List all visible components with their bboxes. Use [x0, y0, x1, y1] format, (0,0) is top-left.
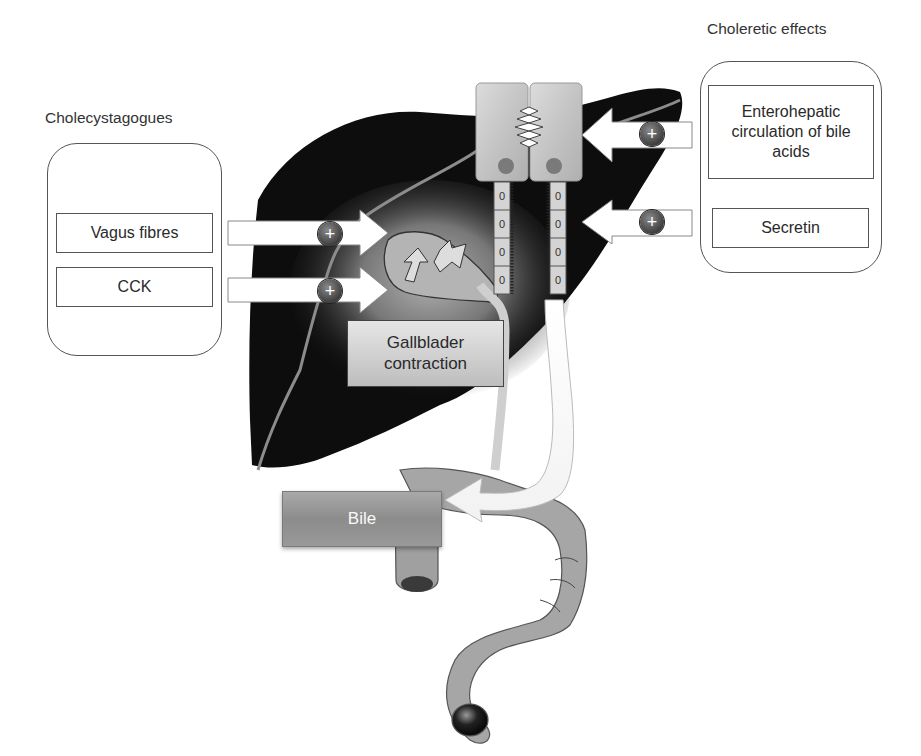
svg-text:0: 0 [555, 190, 561, 202]
svg-text:0: 0 [499, 190, 505, 202]
svg-text:0: 0 [499, 246, 505, 258]
svg-text:0: 0 [499, 274, 505, 286]
factor-enterohepatic-circulation: Enterohepatic circulation of bile acids [708, 85, 874, 179]
factor-vagus-fibres: Vagus fibres [56, 213, 213, 253]
stimulation-plus-icon: + [640, 122, 664, 146]
bile-label: Bile [282, 491, 442, 547]
cholecystagogues-title: Cholecystagogues [45, 109, 173, 127]
svg-text:0: 0 [555, 274, 561, 286]
stimulation-plus-icon: + [640, 210, 664, 234]
factor-cck: CCK [56, 267, 213, 307]
svg-text:0: 0 [555, 246, 561, 258]
factor-secretin: Secretin [712, 208, 869, 248]
choleretic-effects-title: Choleretic effects [707, 20, 826, 38]
stimulation-plus-icon: + [318, 279, 342, 303]
stimulation-plus-icon: + [318, 222, 342, 246]
svg-text:0: 0 [499, 218, 505, 230]
svg-text:0: 0 [555, 218, 561, 230]
gallbladder-contraction-label: Gallblader contraction [347, 320, 504, 387]
